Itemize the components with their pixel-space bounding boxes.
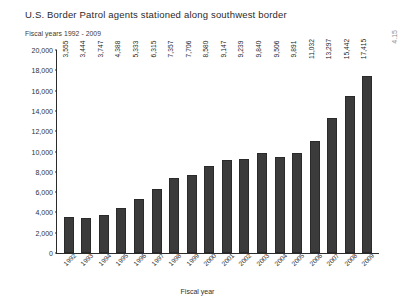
plot-area: 02,0004,0006,0008,00010,00012,00014,0001… [57, 50, 379, 253]
bar-slot: 7,357 [165, 50, 183, 253]
bar-slot: 9,840 [253, 50, 271, 253]
bar-value-label: 15,442 [343, 39, 350, 60]
bar[interactable] [81, 218, 91, 253]
x-tick-label: 1996 [132, 252, 147, 267]
x-tick-label: 2000 [202, 252, 217, 267]
bar[interactable] [116, 208, 126, 253]
x-tick-label: 2007 [325, 252, 340, 267]
x-tick-label: 1998 [167, 252, 182, 267]
y-tick-label: 8,000 [35, 168, 53, 175]
bar-series: 3,5553,4443,7474,3885,3336,3157,3577,706… [57, 50, 379, 253]
chart-title: U.S. Border Patrol agents stationed alon… [25, 9, 287, 20]
x-tick-slot: 1996 [130, 255, 148, 285]
x-tick-slot: 2002 [236, 255, 254, 285]
bar[interactable] [310, 141, 320, 253]
bar-value-label: 3,555 [62, 41, 69, 58]
x-tick-slot: 2006 [306, 255, 324, 285]
y-tick-label: 4,000 [35, 209, 53, 216]
bar[interactable] [204, 166, 214, 253]
bar-slot: 9,147 [218, 50, 236, 253]
y-tick-label: 14,000 [32, 107, 53, 114]
x-tick-slot: 1999 [183, 255, 201, 285]
x-tick-label: 1997 [150, 252, 165, 267]
bar-slot: 17,415 [359, 50, 377, 253]
bar-slot: 13,297 [323, 50, 341, 253]
bar-slot: 5,333 [130, 50, 148, 253]
y-tick-label: 12,000 [32, 128, 53, 135]
x-tick-label: 2005 [290, 252, 305, 267]
bar-slot: 15,442 [341, 50, 359, 253]
bar-value-label: 3,444 [79, 41, 86, 58]
x-tick-label: 1994 [97, 252, 112, 267]
bar-slot: 3,747 [95, 50, 113, 253]
bar[interactable] [362, 76, 372, 253]
bar[interactable] [257, 153, 267, 253]
x-tick-slot: 1998 [165, 255, 183, 285]
x-tick-slot: 1997 [148, 255, 166, 285]
bar[interactable] [64, 217, 74, 253]
bar-value-label: 8,580 [202, 41, 209, 58]
bar-value-label: 11,032 [308, 39, 315, 59]
x-tick-slot: 1994 [95, 255, 113, 285]
y-tick-label: 18,000 [32, 67, 53, 74]
bar-value-label: 7,706 [185, 41, 192, 58]
bar-value-label: 9,147 [220, 41, 227, 58]
bar-slot: 9,891 [288, 50, 306, 253]
bar-value-label: 9,891 [290, 41, 297, 58]
bar[interactable] [275, 157, 285, 253]
bar-slot: 9,239 [236, 50, 254, 253]
bar-slot: 6,315 [148, 50, 166, 253]
x-tick-slot: 1995 [113, 255, 131, 285]
bar[interactable] [152, 189, 162, 253]
bar[interactable] [99, 215, 109, 253]
x-tick-label: 2001 [220, 252, 235, 267]
bar[interactable] [169, 178, 179, 253]
x-tick-slot: 2009 [359, 255, 377, 285]
x-tick-label: 1993 [79, 252, 94, 267]
x-tick-slot: 2003 [253, 255, 271, 285]
x-tick-slot: 1992 [60, 255, 78, 285]
chart-subtitle: Fiscal years 1992 - 2009 [25, 30, 101, 37]
bar-slot: 11,032 [306, 50, 324, 253]
figure-number-artifact: 4.15 [391, 30, 398, 44]
x-tick-slot: 2007 [323, 255, 341, 285]
bar-slot: 7,706 [183, 50, 201, 253]
x-tick-slot: 2000 [201, 255, 219, 285]
bar-value-label: 9,506 [273, 41, 280, 58]
x-tick-slot: 2008 [341, 255, 359, 285]
x-tick-label: 2008 [343, 252, 358, 267]
bar-slot: 9,506 [271, 50, 289, 253]
x-tick-label: 1999 [185, 252, 200, 267]
x-tick-label: 2002 [237, 252, 252, 267]
bar-value-label: 9,840 [255, 41, 262, 58]
x-tick-label: 2004 [273, 252, 288, 267]
bar-value-label: 4,388 [114, 41, 121, 58]
bar[interactable] [187, 175, 197, 253]
x-tick-slot: 2001 [218, 255, 236, 285]
bar[interactable] [292, 153, 302, 253]
bar-value-label: 5,333 [132, 41, 139, 58]
y-tick-label: 0 [49, 250, 53, 257]
bar[interactable] [134, 199, 144, 253]
bar[interactable] [327, 118, 337, 253]
y-tick-label: 6,000 [35, 189, 53, 196]
bar-value-label: 3,747 [97, 41, 104, 58]
y-tick-label: 10,000 [32, 148, 53, 155]
bar-slot: 3,555 [60, 50, 78, 253]
x-tick-label: 2006 [308, 252, 323, 267]
bar[interactable] [239, 159, 249, 253]
x-tick-label: 1992 [62, 252, 77, 267]
bar[interactable] [345, 96, 355, 253]
y-tick-label: 20,000 [32, 47, 53, 54]
bar[interactable] [222, 160, 232, 253]
bar-slot: 4,388 [113, 50, 131, 253]
y-tick-label: 2,000 [35, 229, 53, 236]
x-tick-label: 2003 [255, 252, 270, 267]
x-tick-slot: 2005 [288, 255, 306, 285]
x-axis-tick-labels: 1992199319941995199619971998199920002001… [57, 255, 379, 285]
x-axis-title: Fiscal year [0, 288, 395, 295]
x-tick-slot: 2004 [271, 255, 289, 285]
x-tick-label: 1995 [115, 252, 130, 267]
y-tick-label: 16,000 [32, 87, 53, 94]
x-tick-label: 2009 [360, 252, 375, 267]
